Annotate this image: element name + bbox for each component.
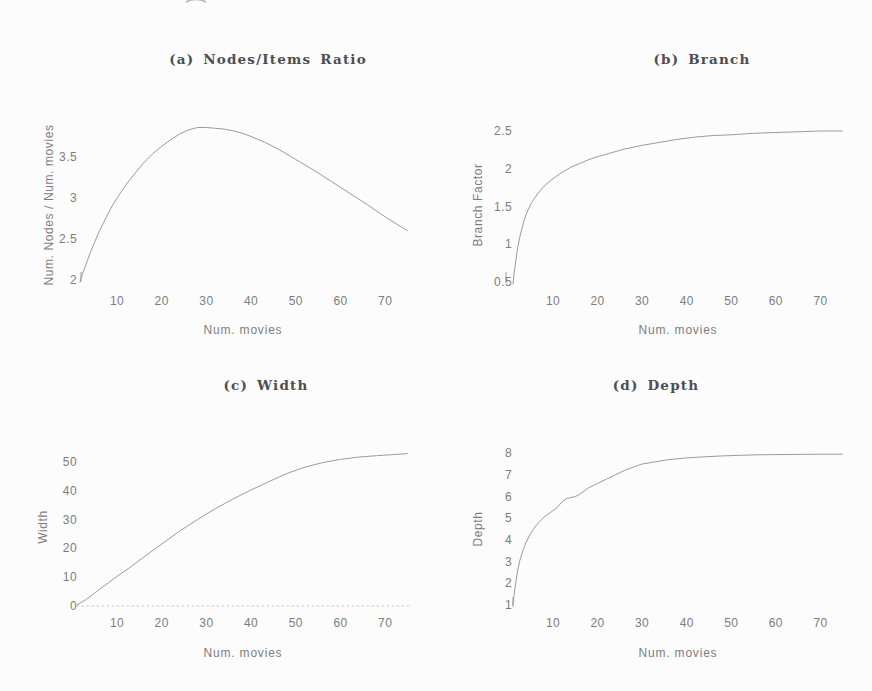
series-depth-curve: [513, 454, 843, 605]
cutoff-text-artifact: [186, 0, 206, 2]
scanned-figure-page: (a) Nodes/Items Ratio Num. Nodes / Num. …: [0, 0, 872, 691]
series-width-curve: [77, 454, 408, 605]
plot-curves-canvas: [0, 0, 872, 691]
series-branch-factor-curve: [513, 131, 843, 284]
series-nodes-items-ratio-curve: [80, 128, 408, 283]
